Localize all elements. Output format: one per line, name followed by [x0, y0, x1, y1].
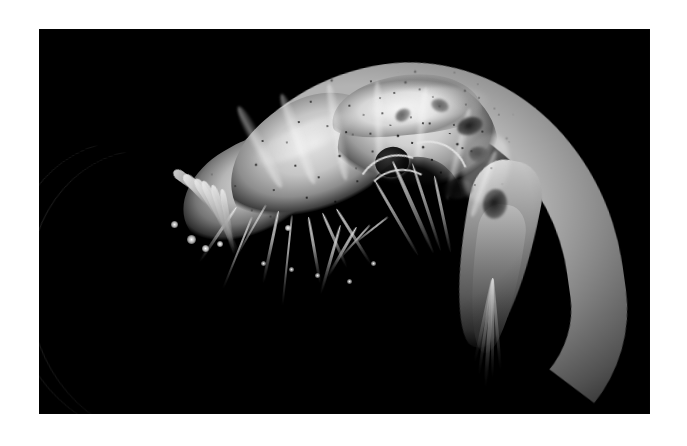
specular-highlight	[202, 245, 209, 252]
leg-joint-highlight	[347, 279, 352, 284]
specular-highlight	[217, 241, 223, 247]
tail-fan-telson-uropods	[459, 277, 537, 397]
specular-highlight	[285, 225, 291, 231]
figure-caption	[39, 420, 650, 440]
specular-highlight	[171, 221, 178, 228]
specular-highlight	[187, 235, 196, 244]
leg-joint-highlight	[289, 267, 294, 272]
figure-root	[0, 0, 687, 446]
specimen-layer	[39, 29, 650, 414]
leg-joint-highlight	[315, 273, 320, 278]
leg-joint-highlight	[371, 261, 376, 266]
specimen-photograph	[39, 29, 650, 414]
leg-joint-highlight	[261, 261, 266, 266]
